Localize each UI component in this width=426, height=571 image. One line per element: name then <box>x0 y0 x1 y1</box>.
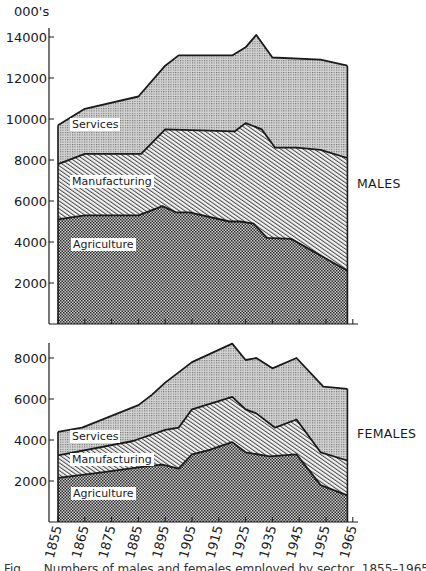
males-services-label: Services <box>70 118 120 131</box>
x-tick-label: 1855 <box>42 524 65 560</box>
males-manufacturing-label: Manufacturing <box>70 175 154 188</box>
x-tick-label: 1905 <box>176 524 199 560</box>
y-tick-label: 2000 <box>14 276 47 291</box>
x-tick-label: 1945 <box>283 524 306 560</box>
y-tick-label: 2000 <box>14 474 47 489</box>
x-tick-label: 1865 <box>69 524 92 560</box>
x-tick-label: 1955 <box>310 524 333 560</box>
x-tick-label: 1935 <box>256 524 279 560</box>
x-tick-label: 1895 <box>149 524 172 560</box>
y-tick-label: 12000 <box>6 71 47 86</box>
x-tick-label: 1965 <box>337 524 360 560</box>
y-tick-label: 8000 <box>14 153 47 168</box>
x-tick-label: 1885 <box>122 524 145 560</box>
x-tick-label: 1915 <box>203 524 226 560</box>
x-tick-label: 1875 <box>95 524 118 560</box>
y-tick-label: 4000 <box>14 433 47 448</box>
figure-caption: Fig. ... Numbers of males and females em… <box>4 562 426 571</box>
females-panel-label: FEMALES <box>357 426 416 441</box>
stacked-area-figure: 2000400060008000100001200014000 20004000… <box>0 0 426 571</box>
males-panel-label: MALES <box>357 176 401 191</box>
females-services-label: Services <box>70 430 120 443</box>
y-tick-label: 8000 <box>14 351 47 366</box>
y-tick-label: 14000 <box>6 30 47 45</box>
y-axis-unit-label: 000's <box>14 4 49 19</box>
charts-canvas: 2000400060008000100001200014000 20004000… <box>0 0 426 571</box>
females-chart: 2000400060008000185518651875188518951905… <box>14 343 360 560</box>
x-tick-label: 1925 <box>229 524 252 560</box>
males-chart: 2000400060008000100001200014000 <box>6 28 358 324</box>
y-tick-label: 10000 <box>6 112 47 127</box>
females-manufacturing-label: Manufacturing <box>70 453 154 466</box>
males-agriculture-label: Agriculture <box>71 238 136 251</box>
y-tick-label: 6000 <box>14 392 47 407</box>
females-agriculture-label: Agriculture <box>71 487 136 500</box>
y-tick-label: 4000 <box>14 235 47 250</box>
y-tick-label: 6000 <box>14 194 47 209</box>
